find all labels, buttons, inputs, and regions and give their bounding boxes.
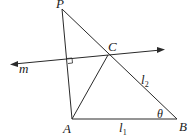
- arrow-right-icon: [157, 47, 165, 53]
- l2-subscript: 2: [145, 80, 149, 89]
- label-theta: θ: [157, 108, 163, 120]
- label-m: m: [19, 62, 28, 75]
- label-c: C: [108, 40, 117, 53]
- segment-ac: [72, 55, 108, 119]
- arrow-left-icon: [10, 61, 18, 67]
- label-a: A: [63, 122, 71, 135]
- line-m: [14, 50, 161, 64]
- segment-pb: [62, 9, 177, 119]
- label-l2: l2: [141, 73, 149, 89]
- label-p: P: [56, 0, 64, 10]
- label-b: B: [179, 120, 187, 133]
- l1-subscript: 1: [123, 128, 127, 137]
- geometry-diagram: P C A B m θ l2 l1: [0, 0, 191, 140]
- label-l1: l1: [119, 121, 127, 137]
- segment-pa: [62, 9, 72, 119]
